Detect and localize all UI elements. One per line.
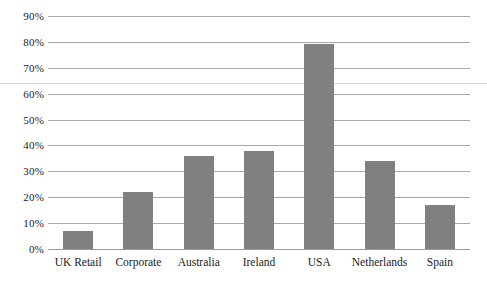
x-axis-tick-label: UK Retail — [55, 256, 102, 269]
gridline — [48, 94, 470, 95]
x-axis-tick-label: Corporate — [115, 256, 161, 269]
x-axis-tick-label: USA — [308, 256, 331, 269]
y-axis-tick-label: 10% — [0, 218, 44, 229]
y-axis-tick-label: 30% — [0, 166, 44, 177]
bar — [123, 192, 153, 249]
bar — [425, 205, 455, 249]
gridline — [48, 68, 470, 69]
x-axis-tick-label: Spain — [427, 256, 453, 269]
gridline — [48, 16, 470, 17]
bar — [63, 231, 93, 249]
gridline — [48, 120, 470, 121]
y-axis-tick-label: 80% — [0, 37, 44, 48]
y-axis-tick-label: 50% — [0, 115, 44, 126]
x-axis-tick-label: Netherlands — [352, 256, 408, 269]
x-axis-tick-label: Australia — [178, 256, 220, 269]
x-axis-tick-label: Ireland — [243, 256, 276, 269]
bar — [365, 161, 395, 249]
y-axis-tick-label: 90% — [0, 11, 44, 22]
y-axis-tick-label: 20% — [0, 192, 44, 203]
x-axis-line — [48, 249, 470, 250]
bar — [244, 151, 274, 249]
y-axis-tick-label: 0% — [0, 244, 44, 255]
gridline — [48, 42, 470, 43]
y-axis-tick-label: 40% — [0, 140, 44, 151]
gridline — [48, 145, 470, 146]
bar-chart: 0%10%20%30%40%50%60%70%80%90% UK RetailC… — [0, 0, 487, 290]
y-axis-tick-label: 70% — [0, 63, 44, 74]
bar — [184, 156, 214, 249]
y-axis: 0%10%20%30%40%50%60%70%80%90% — [0, 0, 44, 290]
page-divider-line — [0, 83, 487, 84]
y-axis-tick-label: 60% — [0, 89, 44, 100]
plot-area — [48, 16, 470, 249]
bar — [304, 44, 334, 249]
